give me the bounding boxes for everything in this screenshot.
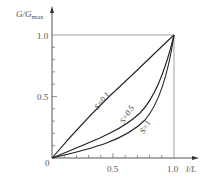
x-axis-arrow-icon bbox=[192, 156, 199, 160]
y-axis-label-main: G/G bbox=[16, 9, 32, 19]
curve-label-s-1: S=1 bbox=[138, 119, 152, 135]
curve-s-0.1 bbox=[52, 35, 174, 158]
x-tick-label-1.0: 1.0 bbox=[167, 164, 179, 174]
curve-s-0.5 bbox=[52, 35, 174, 158]
x-ticks bbox=[64, 153, 162, 158]
curve-s-1 bbox=[52, 35, 174, 158]
y-tick-label-0.5: 0.5 bbox=[37, 92, 49, 102]
curve-label-s-0.5: S=0.5 bbox=[118, 104, 136, 125]
y-axis-label: G/Gmax bbox=[16, 9, 44, 21]
x-axis-label: l/L bbox=[186, 164, 196, 174]
y-axis-arrow-icon bbox=[50, 6, 54, 13]
curve-label-s-0.1: S=0.1 bbox=[92, 90, 111, 111]
y-tick-label-1: 1.0 bbox=[37, 31, 49, 41]
y-ticks bbox=[52, 47, 57, 145]
origin-label: 0 bbox=[45, 158, 50, 168]
chart: 1.0 0.5 0 0.5 1.0 l/L G/Gmax S=0.1 S=0.5… bbox=[0, 0, 213, 183]
y-axis-label-sub: max bbox=[32, 13, 45, 21]
x-tick-label-0.5: 0.5 bbox=[107, 164, 119, 174]
